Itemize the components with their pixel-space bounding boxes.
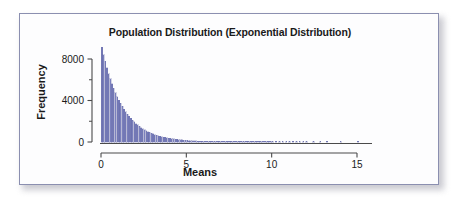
svg-text:4000: 4000 [62,95,85,106]
plot-area: Population Distribution (Exponential Dis… [20,14,440,186]
svg-text:8000: 8000 [62,54,85,65]
figure-root: Population Distribution (Exponential Dis… [0,0,462,212]
svg-text:0: 0 [78,137,84,148]
x-axis-ticks: 051015 [98,153,363,170]
svg-text:15: 15 [351,159,363,170]
histogram-svg: 051015 040008000 [20,14,440,186]
svg-text:5: 5 [184,159,190,170]
y-axis-ticks: 040008000 [62,54,92,148]
svg-text:10: 10 [266,159,278,170]
svg-text:0: 0 [98,159,104,170]
chart-panel: Population Distribution (Exponential Dis… [19,13,439,185]
histogram-bars [101,47,358,142]
